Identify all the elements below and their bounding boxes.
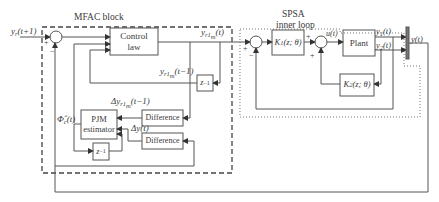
sum3-plus-bottom-sign: + xyxy=(310,52,315,60)
difference-2-label: Difference xyxy=(142,133,183,149)
yr-args: (t+1) xyxy=(18,26,37,36)
signal-yr1m-tm1: yr1m(t−1) xyxy=(160,67,194,80)
dyr1m-args: (t−1) xyxy=(131,96,150,106)
control-law-label: Control law xyxy=(110,28,158,55)
mfac-block-title: MFAC block xyxy=(74,13,124,23)
signal-y2: y2(t) xyxy=(376,41,391,52)
sum2-minus-sign: − xyxy=(249,52,254,60)
yr1m-t-args: (t) xyxy=(215,27,224,37)
k2-label: K2(z; θ) xyxy=(340,74,374,96)
signal-delta-y: Δy(t) xyxy=(131,124,149,133)
pjm-estimator-label: PJM estimator xyxy=(81,110,117,139)
delay-bottom-exp: −1 xyxy=(99,148,105,155)
signal-y1: y1(t) xyxy=(376,27,391,38)
delay-top-label: z−1 xyxy=(197,75,213,91)
signal-yr1m-t: yr1m(t) xyxy=(201,28,224,41)
yr1m-tm1-args: (t−1) xyxy=(174,66,193,76)
phi-main: Φ̂ xyxy=(57,114,64,124)
delay-top-exp: −1 xyxy=(203,80,209,87)
plant-label: Plant xyxy=(343,30,375,56)
pjm-line2: estimator xyxy=(83,125,115,135)
signal-delta-yr1m: Δyr1m(t−1) xyxy=(111,97,150,110)
signal-u: u(t) xyxy=(326,30,338,38)
signal-yr: yr(t+1) xyxy=(11,27,37,38)
y2-args: (t) xyxy=(383,40,391,50)
control-law-line2: law xyxy=(128,42,141,52)
dyr1m-prefix: Δy xyxy=(111,96,120,106)
k2-args: (z; θ) xyxy=(352,80,370,90)
sum-junction-2 xyxy=(250,36,262,48)
mux-bar xyxy=(406,27,409,59)
k1-label: K1(z; θ) xyxy=(272,30,304,55)
sum3-plus-top-sign: + xyxy=(306,33,311,41)
sum-junction-1 xyxy=(50,31,62,43)
sum2-plus-sign: + xyxy=(243,45,248,53)
control-law-line1: Control xyxy=(120,31,148,41)
delay-bottom-label: z−1 xyxy=(93,143,109,160)
sum1-plus-sign: + xyxy=(44,39,49,47)
sum1-minus-sign: − xyxy=(50,48,55,56)
k1-args: (z; θ) xyxy=(283,38,301,48)
y1-args: (t) xyxy=(383,26,391,36)
signal-y-out: y(t) xyxy=(411,35,423,44)
phi-args: (t) xyxy=(67,114,76,124)
signal-phi-hat: Φ̂c(t) xyxy=(57,115,75,126)
spsa-title: SPSA xyxy=(282,10,305,20)
